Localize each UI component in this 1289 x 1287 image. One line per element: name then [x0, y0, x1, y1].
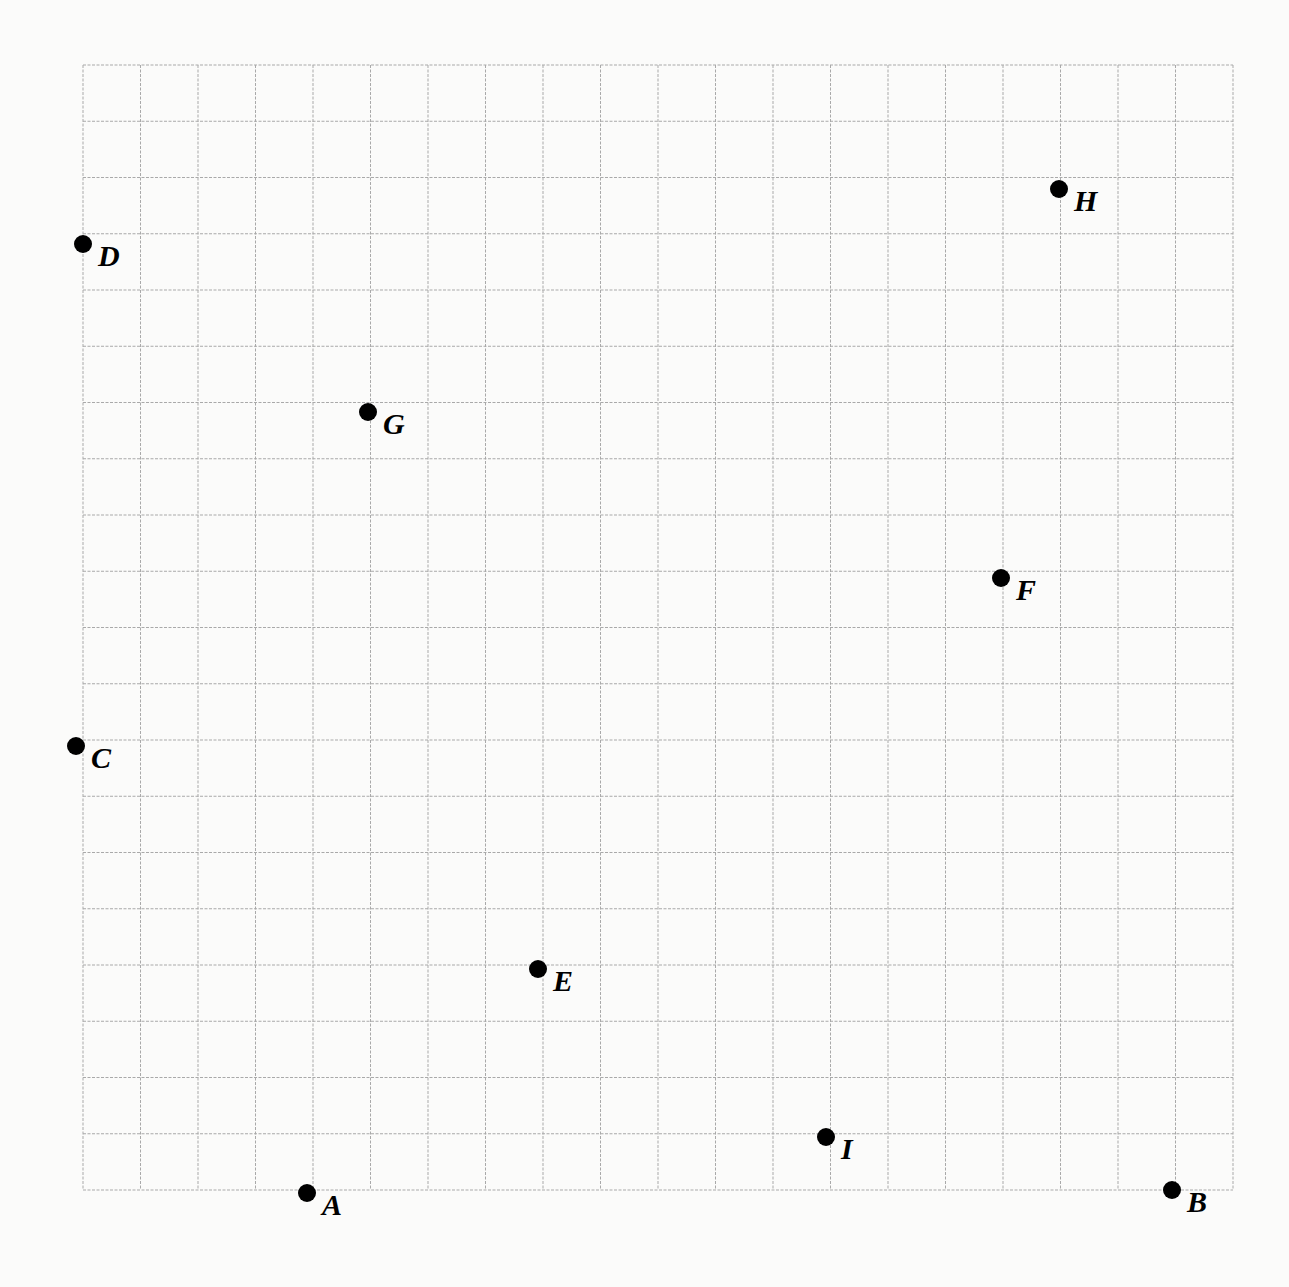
point-dot — [359, 403, 377, 421]
point-dot — [67, 737, 85, 755]
point-dot — [1050, 180, 1068, 198]
point-a: A — [298, 1184, 342, 1221]
point-g: G — [359, 403, 405, 440]
point-d: D — [74, 235, 120, 272]
point-dot — [298, 1184, 316, 1202]
coordinate-grid-page: ABCDEFGHI — [0, 0, 1289, 1287]
plotted-points: ABCDEFGHI — [67, 180, 1207, 1221]
point-c: C — [67, 737, 112, 774]
point-dot — [1163, 1181, 1181, 1199]
point-dot — [529, 960, 547, 978]
point-e: E — [529, 960, 573, 997]
point-label: E — [552, 964, 573, 997]
point-label: H — [1073, 184, 1099, 217]
point-label: A — [320, 1188, 342, 1221]
grid-lines — [83, 65, 1233, 1190]
point-f: F — [992, 569, 1036, 606]
point-dot — [992, 569, 1010, 587]
point-b: B — [1163, 1181, 1207, 1218]
coordinate-grid: ABCDEFGHI — [0, 0, 1289, 1287]
point-label: D — [97, 239, 120, 272]
point-label: G — [383, 407, 405, 440]
point-dot — [74, 235, 92, 253]
point-label: C — [91, 741, 112, 774]
point-h: H — [1050, 180, 1099, 217]
point-label: F — [1015, 573, 1036, 606]
point-label: B — [1186, 1185, 1207, 1218]
point-dot — [817, 1128, 835, 1146]
point-label: I — [840, 1132, 854, 1165]
